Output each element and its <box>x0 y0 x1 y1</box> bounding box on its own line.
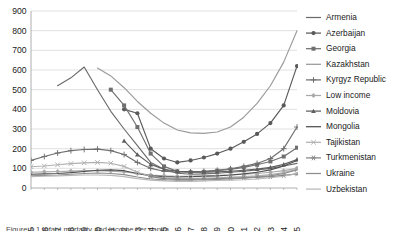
legend-label: Turkmenistan <box>326 152 376 162</box>
x-axis-tick-label: 2003 <box>266 227 276 231</box>
figure-caption: Figure 1.1 Infant mortality and income p… <box>6 225 169 231</box>
data-point-marker <box>149 152 153 156</box>
legend-item[interactable]: Uzbekistan <box>306 184 367 194</box>
data-point-marker <box>202 155 206 159</box>
data-point-marker <box>135 125 139 129</box>
line-chart: 0100200300400500600700800900198519861987… <box>0 0 414 231</box>
x-axis-tick-label: 1997 <box>186 227 196 231</box>
data-point-marker <box>242 140 246 144</box>
x-axis-tick-label: 1999 <box>212 227 222 231</box>
data-point-marker <box>109 88 113 92</box>
legend-label: Moldovia <box>326 106 360 116</box>
legend-label: Armenia <box>326 12 357 22</box>
legend-item[interactable]: Tajikistan <box>306 137 361 147</box>
data-point-marker <box>282 103 286 107</box>
data-point-marker <box>162 156 166 160</box>
legend-item[interactable]: Low income <box>306 90 371 100</box>
data-point-marker <box>311 31 315 35</box>
legend-label: Kazakhstan <box>326 59 370 69</box>
legend-item[interactable]: Kazakhstan <box>306 59 370 69</box>
data-point-marker <box>312 47 316 51</box>
x-axis-tick-label: 2000 <box>226 227 236 231</box>
x-axis-tick-label: 2004 <box>279 227 289 231</box>
legend-item[interactable]: Ukraine <box>306 168 355 178</box>
legend-label: Low income <box>326 90 371 100</box>
y-axis-tick-label: 900 <box>12 6 27 16</box>
x-axis-tick-label: 2005 <box>292 227 302 231</box>
data-point-marker <box>311 77 317 83</box>
y-axis-tick-label: 400 <box>12 104 27 114</box>
y-axis-tick-label: 500 <box>12 85 27 95</box>
data-point-marker <box>311 156 316 161</box>
data-point-marker <box>295 146 299 150</box>
x-axis-tick-label: 2001 <box>239 227 249 231</box>
y-axis-tick-label: 300 <box>12 124 27 134</box>
legend-label: Kyrgyz Republic <box>326 74 386 84</box>
legend: ArmeniaAzerbaijanGeorgiaKazakhstanKyrgyz… <box>306 12 386 194</box>
x-axis-tick-label: 2002 <box>252 227 262 231</box>
legend-item[interactable]: Armenia <box>306 12 357 22</box>
y-axis-tick-label: 0 <box>22 183 27 193</box>
data-point-marker <box>122 103 126 107</box>
data-point-marker <box>189 158 193 162</box>
legend-label: Ukraine <box>326 168 355 178</box>
legend-label: Georgia <box>326 43 356 53</box>
y-axis-tick-label: 100 <box>12 163 27 173</box>
y-axis-tick-label: 600 <box>12 65 27 75</box>
data-point-marker <box>215 151 219 155</box>
legend-label: Azerbaijan <box>326 28 366 38</box>
legend-item[interactable]: Georgia <box>306 43 356 53</box>
data-point-marker <box>268 121 272 125</box>
legend-item[interactable]: Moldovia <box>306 106 360 116</box>
legend-item[interactable]: Kyrgyz Republic <box>306 74 386 84</box>
legend-label: Uzbekistan <box>326 184 367 194</box>
data-point-marker <box>135 111 139 115</box>
legend-item[interactable]: Azerbaijan <box>306 28 366 38</box>
legend-item[interactable]: Mongolia <box>306 121 360 131</box>
y-axis-tick-label: 800 <box>12 26 27 36</box>
data-point-marker <box>282 155 286 159</box>
x-axis-tick-label: 1998 <box>199 227 209 231</box>
legend-label: Mongolia <box>326 121 360 131</box>
data-point-marker <box>311 93 316 98</box>
data-point-marker <box>255 132 259 136</box>
legend-item[interactable]: Turkmenistan <box>306 152 376 162</box>
data-point-marker <box>175 160 179 164</box>
x-axis-tick-label: 1996 <box>173 227 183 231</box>
legend-label: Tajikistan <box>326 137 361 147</box>
data-point-marker <box>228 147 232 151</box>
y-axis-tick-label: 700 <box>12 45 27 55</box>
data-point-marker <box>295 64 299 68</box>
y-axis-tick-label: 200 <box>12 144 27 154</box>
